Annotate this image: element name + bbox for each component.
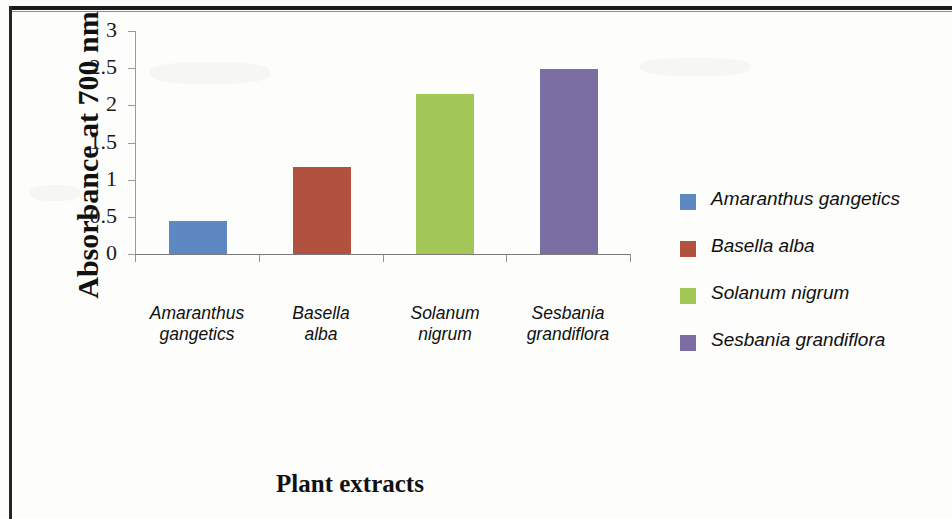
y-axis-tick-label: 1	[106, 166, 117, 192]
x-axis-tick	[506, 254, 507, 262]
y-axis-tick: 2.5	[128, 68, 135, 69]
legend-swatch-icon	[680, 288, 696, 304]
x-axis-category-label-line: alba	[259, 324, 383, 345]
y-axis-title: Absorbance at 700 nm	[71, 5, 105, 305]
bar	[169, 221, 227, 254]
bar	[540, 69, 598, 254]
x-axis-category-label-line: Solanum	[383, 303, 507, 324]
y-axis-tick-label: 0.5	[90, 203, 118, 229]
legend-item-label: Basella alba	[711, 235, 815, 257]
bar	[416, 94, 474, 254]
x-axis-category-label: Solanumnigrum	[383, 303, 507, 345]
x-axis-category-label: Sesbaniagrandiflora	[506, 303, 630, 345]
x-axis-category-label-line: grandiflora	[506, 324, 630, 345]
x-axis-category-label-line: Basella	[259, 303, 383, 324]
page-border-top-hairline	[10, 11, 952, 12]
y-axis-tick-label: 2	[106, 92, 117, 118]
y-axis-tick: 0	[128, 254, 135, 255]
y-axis-line	[135, 31, 136, 254]
x-axis-tick	[630, 254, 631, 262]
y-axis-tick: 1.5	[128, 143, 135, 144]
legend-item-label: Amaranthus gangetics	[711, 188, 900, 210]
x-axis-category-label-line: nigrum	[383, 324, 507, 345]
y-axis-tick: 0.5	[128, 217, 135, 218]
y-axis-tick-label: 0	[106, 240, 117, 266]
plot-area: 00.511.522.53 AmaranthusgangeticsBasella…	[135, 31, 630, 254]
x-axis-category-label-line: gangetics	[135, 324, 259, 345]
x-axis-category-label-line: Sesbania	[506, 303, 630, 324]
page-border-left	[9, 6, 12, 519]
y-axis-tick: 1	[128, 180, 135, 181]
x-axis-tick	[259, 254, 260, 262]
y-axis-tick: 3	[128, 31, 135, 32]
y-axis-tick-label: 3	[106, 17, 117, 43]
page-border-top	[10, 6, 952, 10]
chart-page: Absorbance at 700 nm Plant extracts 00.5…	[0, 0, 952, 519]
legend-item-label: Solanum nigrum	[711, 282, 849, 304]
x-axis-category-label-line: Amaranthus	[135, 303, 259, 324]
x-axis-title: Plant extracts	[0, 470, 700, 498]
scan-artifact	[640, 58, 750, 76]
legend-swatch-icon	[680, 335, 696, 351]
legend-swatch-icon	[680, 194, 696, 210]
legend-item-label: Sesbania grandiflora	[711, 329, 885, 351]
x-axis-category-label: Amaranthusgangetics	[135, 303, 259, 345]
y-axis-tick: 2	[128, 105, 135, 106]
y-axis-tick-label: 2.5	[90, 55, 118, 81]
y-axis-tick-label: 1.5	[90, 129, 118, 155]
x-axis-tick	[135, 254, 136, 262]
legend-swatch-icon	[680, 241, 696, 257]
x-axis-category-label: Basellaalba	[259, 303, 383, 345]
x-axis-tick	[383, 254, 384, 262]
bar	[293, 167, 351, 254]
